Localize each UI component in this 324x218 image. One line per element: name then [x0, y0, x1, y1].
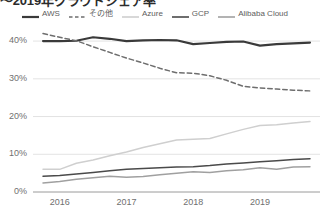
x-axis-tick-label: 2018 — [173, 197, 213, 207]
y-axis-tick-label: 40% — [1, 35, 27, 45]
y-axis-tick-label: 0% — [1, 186, 27, 196]
series-lines — [43, 34, 310, 183]
series-line-その他 — [43, 34, 310, 91]
plot-area — [0, 0, 324, 218]
y-axis-tick-label: 10% — [1, 148, 27, 158]
chart-container: 〜2019年クラウドシェア率 AWS その他 Azure GCP Alibaba… — [0, 0, 324, 218]
x-axis-tick-label: 2019 — [240, 197, 280, 207]
y-axis-tick-label: 20% — [1, 111, 27, 121]
series-line-azure — [43, 121, 310, 169]
series-line-alibaba-cloud — [43, 167, 310, 183]
x-axis-tick-label: 2016 — [40, 197, 80, 207]
x-axis-tick-label: 2017 — [106, 197, 146, 207]
y-axis-tick-label: 30% — [1, 73, 27, 83]
